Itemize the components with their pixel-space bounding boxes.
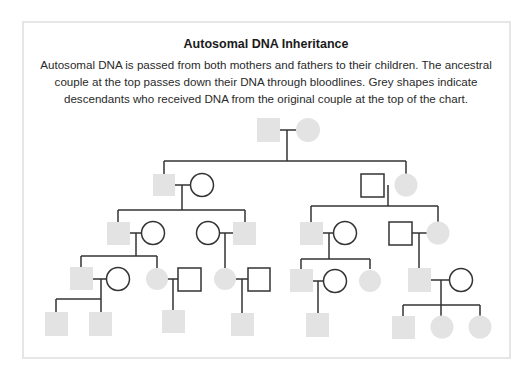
g1-male-square	[257, 118, 280, 142]
g5c-male-square	[162, 310, 185, 333]
g4e-female-circle	[359, 270, 381, 292]
pedigree-tree	[0, 0, 532, 379]
g4b-female-circle	[146, 268, 168, 290]
g2a-male-square	[153, 174, 175, 196]
g2b-female-circle	[395, 174, 418, 197]
g5a-male-square	[45, 312, 68, 336]
g4f-female-circle	[450, 269, 473, 292]
g3c-male-square	[300, 222, 323, 245]
g5h-female-circle	[469, 316, 492, 339]
g2b-male-square	[361, 174, 384, 197]
g3c-female-circle	[334, 222, 357, 245]
g4d-female-circle	[324, 270, 347, 293]
g3d-female-circle	[427, 222, 450, 245]
g5g-female-circle	[431, 316, 454, 339]
g1-female-circle	[296, 118, 320, 142]
g5d-male-square	[231, 313, 254, 336]
g5b-male-square	[89, 312, 112, 336]
g3b-male-square	[233, 222, 256, 245]
g5e-male-square	[306, 313, 329, 337]
g3a-male-square	[107, 222, 130, 245]
g4c-female-circle	[214, 268, 236, 290]
g5f-male-square	[392, 316, 415, 339]
g3d-male-square	[389, 222, 412, 245]
g3b-female-circle	[197, 222, 220, 245]
g4b-male-square	[178, 268, 201, 291]
g4a-male-square	[70, 267, 93, 290]
g4a-female-circle	[107, 268, 130, 291]
g4d-male-square	[290, 269, 313, 292]
g4f-male-square	[408, 268, 431, 292]
g4c-male-square	[248, 268, 270, 291]
g2a-female-circle	[191, 174, 214, 197]
g3a-female-circle	[142, 222, 165, 245]
